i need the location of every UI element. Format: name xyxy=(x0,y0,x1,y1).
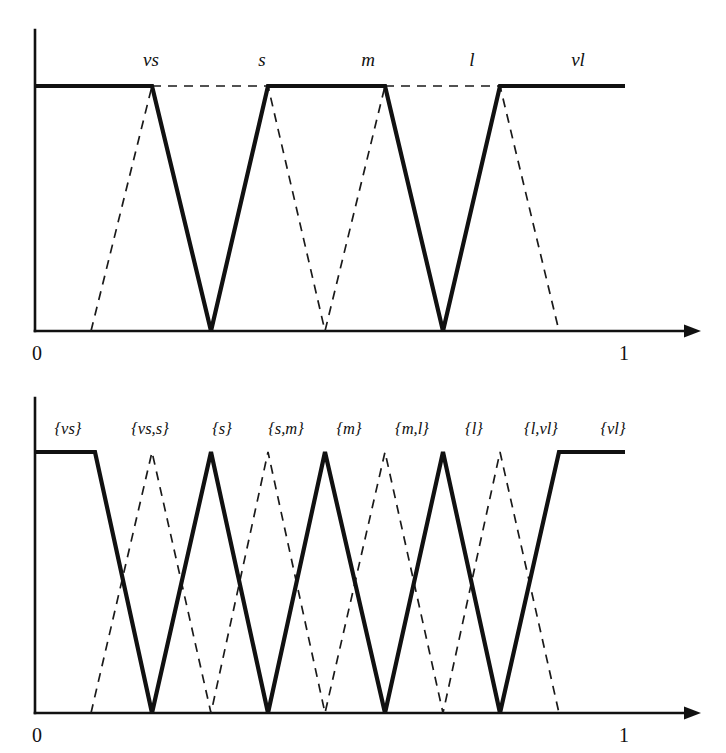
bottom-chart-tick-0: 0 xyxy=(32,724,42,746)
fuzzy-granulation-figure: vs s m l vl 0 1 {vs} {vs,s} {s} {s,m} xyxy=(0,0,726,753)
bottom-chart-label-vs-s: {vs,s} xyxy=(131,419,169,438)
top-chart-label-l: l xyxy=(469,49,474,70)
top-chart-x-axis-arrow-icon xyxy=(684,325,701,338)
top-chart-solid-membership xyxy=(35,86,625,331)
top-chart-label-vs: vs xyxy=(143,49,159,70)
bottom-chart-label-vl: {vl} xyxy=(600,419,626,438)
bottom-chart-label-vs: {vs} xyxy=(55,419,82,438)
bottom-chart-label-s: {s} xyxy=(212,419,232,438)
top-chart-label-s: s xyxy=(258,49,265,70)
bottom-chart-label-l: {l} xyxy=(465,419,483,438)
figure-canvas: vs s m l vl 0 1 {vs} {vs,s} {s} {s,m} xyxy=(0,0,726,753)
bottom-chart-label-s-m: {s,m} xyxy=(268,419,304,438)
bottom-chart-solid-membership xyxy=(35,452,625,713)
bottom-chart-label-m-l: {m,l} xyxy=(395,419,429,438)
bottom-chart: {vs} {vs,s} {s} {s,m} {m} {m,l} {l} {l,v… xyxy=(32,398,701,746)
bottom-chart-label-l-vl: {l,vl} xyxy=(524,419,558,438)
top-chart-tick-0: 0 xyxy=(32,342,42,364)
top-chart-label-vl: vl xyxy=(571,49,585,70)
bottom-chart-tick-1: 1 xyxy=(619,724,629,746)
bottom-chart-label-m: {m} xyxy=(336,419,362,438)
top-chart-tick-1: 1 xyxy=(619,342,629,364)
top-chart: vs s m l vl 0 1 xyxy=(32,30,701,364)
top-chart-label-m: m xyxy=(361,49,375,70)
bottom-chart-x-axis-arrow-icon xyxy=(684,707,701,720)
